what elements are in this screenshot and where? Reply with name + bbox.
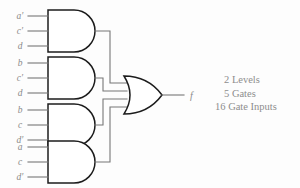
stat-gate-inputs: 16 Gate Inputs xyxy=(215,100,300,114)
and-gate-2-input-label-3: d xyxy=(18,88,23,98)
and-gate-1-input-label-1: a′ xyxy=(17,11,25,21)
or-gate: f xyxy=(124,76,194,114)
and-gate-2-input-label-1: b xyxy=(18,58,23,68)
and-gate-3-body xyxy=(48,104,95,146)
logic-circuit-diagram: a′ c′ d b c′ d b c d′ xyxy=(0,0,300,188)
and-gate-1-input-label-2: c′ xyxy=(17,26,24,36)
and-gate-3-input-label-1: b xyxy=(18,105,23,115)
circuit-stats: 2 Levels 5 Gates 16 Gate Inputs xyxy=(215,73,300,114)
and-gate-1-output-wire xyxy=(95,31,127,83)
stat-gates: 5 Gates xyxy=(215,87,300,101)
and-gate-4-input-label-1: a xyxy=(18,142,23,152)
and-gate-4-input-label-2: c xyxy=(18,157,23,167)
output-label-f: f xyxy=(190,90,194,101)
and-gate-2-input-label-2: c′ xyxy=(17,73,24,83)
and-gate-2-body xyxy=(48,57,95,99)
and-gate-3-output-wire xyxy=(95,99,127,125)
and-gate-3-input-label-2: c xyxy=(18,120,23,130)
and-gate-1-input-label-3: d xyxy=(18,41,23,51)
stat-levels: 2 Levels xyxy=(215,73,300,87)
and-gate-1-body xyxy=(48,10,95,52)
or-gate-body xyxy=(124,76,162,114)
and-gate-2-output-wire xyxy=(95,78,127,91)
and-gate-4-body xyxy=(48,141,95,183)
and-gate-4-output-wire xyxy=(95,107,127,162)
and-gate-4-input-label-3: d′ xyxy=(17,172,25,182)
